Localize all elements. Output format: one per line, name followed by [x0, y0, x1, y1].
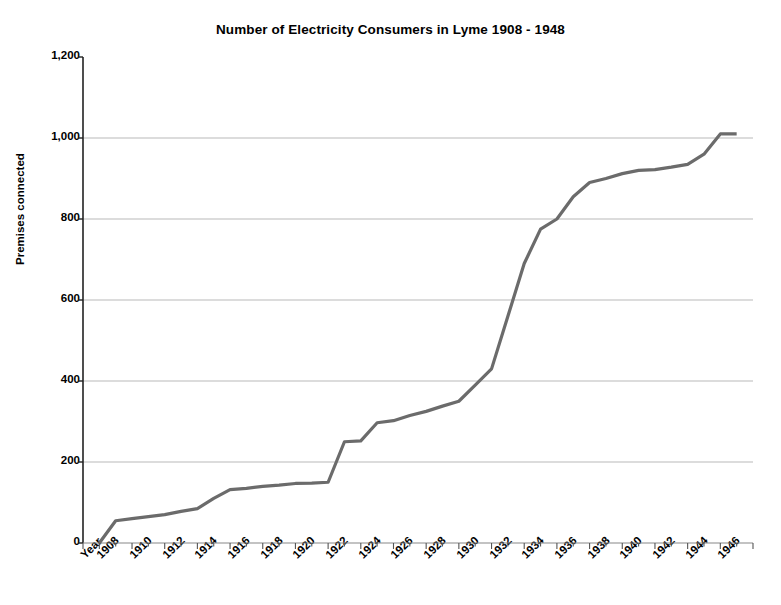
data-series-line: [99, 134, 736, 543]
plot-area: [0, 0, 781, 605]
axis-ticks: [78, 57, 753, 549]
line-chart: Number of Electricity Consumers in Lyme …: [0, 0, 781, 605]
